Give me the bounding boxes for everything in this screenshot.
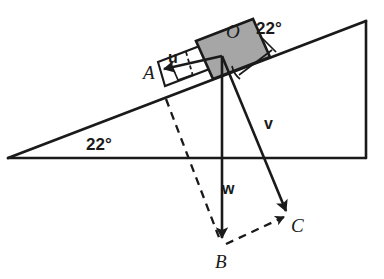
label-vector-w: w	[222, 181, 234, 197]
diagram-svg	[0, 0, 384, 279]
base-angle-marks	[71, 146, 74, 158]
label-point-c: C	[291, 216, 304, 235]
incline-slope-line	[8, 21, 366, 158]
figure-canvas: 22° 22° u v w A O B C	[0, 0, 384, 279]
label-incline-base-angle: 22°	[86, 136, 112, 153]
dashed-A-to-B	[166, 99, 220, 240]
dashed-B-to-C	[226, 217, 284, 244]
base-angle-arc	[71, 146, 74, 158]
label-point-a: A	[143, 63, 155, 82]
label-point-b: B	[215, 252, 227, 271]
label-point-o: O	[226, 22, 240, 41]
label-vector-v: v	[264, 116, 273, 132]
label-vector-u: u	[168, 50, 178, 66]
label-block-normal-angle: 22°	[256, 20, 282, 37]
incline-triangle	[8, 21, 366, 158]
